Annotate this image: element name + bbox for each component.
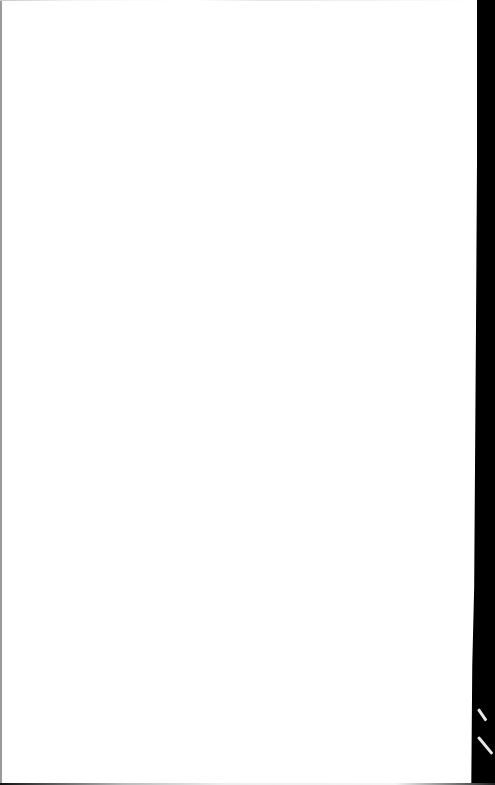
blank-page	[0, 0, 478, 783]
scanned-document	[0, 0, 495, 785]
dark-scanner-border	[477, 0, 495, 785]
page-top-edge	[0, 0, 478, 1]
